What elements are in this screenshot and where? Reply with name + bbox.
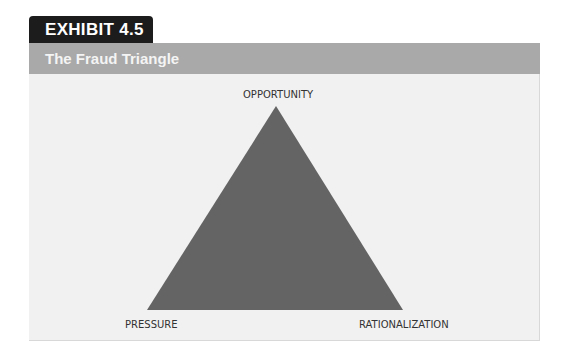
- label-opportunity: OPPORTUNITY: [243, 89, 313, 100]
- label-rationalization: RATIONALIZATION: [359, 319, 449, 330]
- triangle-shape: [147, 106, 403, 310]
- label-pressure: PRESSURE: [125, 319, 178, 330]
- fraud-triangle-diagram: [0, 0, 569, 363]
